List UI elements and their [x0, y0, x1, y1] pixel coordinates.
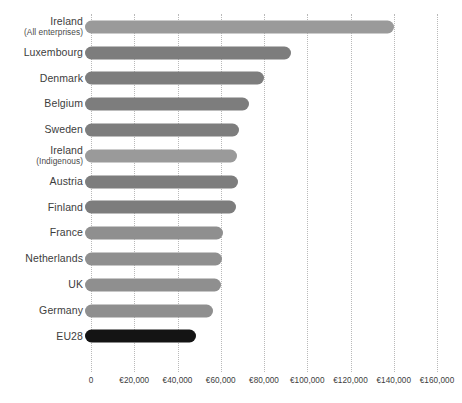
bar-chart: Ireland(All enterprises)LuxembourgDenmar…	[0, 0, 462, 403]
bar[interactable]	[85, 253, 222, 266]
bar-row: EU28	[0, 324, 462, 350]
bar[interactable]	[85, 124, 239, 137]
x-axis: 0€20,000€40,000€60,000€80,000€100,000€12…	[0, 376, 462, 394]
bar-track	[91, 195, 437, 221]
bar-rows: Ireland(All enterprises)LuxembourgDenmar…	[0, 14, 462, 358]
bar[interactable]	[85, 227, 223, 240]
category-label-main: Denmark	[40, 73, 83, 85]
bar[interactable]	[85, 72, 264, 85]
category-label-main: Netherlands	[25, 253, 83, 265]
category-label: Finland	[0, 195, 83, 221]
bar-track	[91, 246, 437, 272]
bar-row: Ireland(All enterprises)	[0, 14, 462, 40]
x-tick-label: €40,000	[163, 376, 193, 385]
category-label: Germany	[0, 298, 83, 324]
bar[interactable]	[85, 46, 291, 59]
bar[interactable]	[85, 98, 249, 111]
bar[interactable]	[85, 304, 213, 317]
category-label-main: UK	[68, 279, 83, 291]
bar-track	[91, 169, 437, 195]
category-label: France	[0, 220, 83, 246]
bar-row: Sweden	[0, 117, 462, 143]
category-label-main: Sweden	[44, 124, 83, 136]
category-label: Luxembourg	[0, 40, 83, 66]
bar-track	[91, 143, 437, 169]
bar[interactable]	[85, 330, 196, 343]
category-label: Sweden	[0, 117, 83, 143]
category-label-main: EU28	[56, 331, 83, 343]
bar[interactable]	[85, 149, 237, 162]
bar-row: UK	[0, 272, 462, 298]
x-tick-label: €140,000	[376, 376, 411, 385]
bar-track	[91, 40, 437, 66]
x-tick-label: €20,000	[119, 376, 149, 385]
category-label-main: France	[50, 227, 83, 239]
category-label-main: Finland	[48, 202, 83, 214]
category-label: Ireland(All enterprises)	[0, 14, 83, 40]
bar-track	[91, 220, 437, 246]
category-label: Austria	[0, 169, 83, 195]
bar-row: Netherlands	[0, 246, 462, 272]
category-label-main: Austria	[50, 176, 83, 188]
category-label-main: Luxembourg	[24, 47, 83, 59]
category-label: UK	[0, 272, 83, 298]
bar-row: Denmark	[0, 66, 462, 92]
bar[interactable]	[85, 175, 238, 188]
bar-track	[91, 14, 437, 40]
bar-track	[91, 91, 437, 117]
category-label-main: Germany	[39, 305, 83, 317]
x-tick-label: €60,000	[206, 376, 236, 385]
x-tick-label: €120,000	[333, 376, 368, 385]
bar-row: Germany	[0, 298, 462, 324]
category-label: Belgium	[0, 91, 83, 117]
bar-row: Austria	[0, 169, 462, 195]
bar[interactable]	[85, 201, 236, 214]
x-tick-label: 0	[89, 376, 94, 385]
bar[interactable]	[85, 278, 221, 291]
bar-track	[91, 324, 437, 350]
x-tick-label: €80,000	[249, 376, 279, 385]
bar-track	[91, 117, 437, 143]
bar-row: Belgium	[0, 91, 462, 117]
x-tick-label: €100,000	[290, 376, 325, 385]
category-label-main: Belgium	[44, 98, 83, 110]
bar[interactable]	[85, 20, 394, 33]
category-label-sub: (Indigenous)	[36, 157, 83, 166]
category-label-sub: (All enterprises)	[24, 28, 83, 37]
category-label: Denmark	[0, 66, 83, 92]
category-label: Ireland(Indigenous)	[0, 143, 83, 169]
bar-row: Luxembourg	[0, 40, 462, 66]
bar-row: France	[0, 220, 462, 246]
bar-track	[91, 272, 437, 298]
bar-row: Finland	[0, 195, 462, 221]
bar-track	[91, 66, 437, 92]
x-tick-label: €160,000	[420, 376, 455, 385]
bar-row: Ireland(Indigenous)	[0, 143, 462, 169]
category-label: EU28	[0, 324, 83, 350]
category-label: Netherlands	[0, 246, 83, 272]
bar-track	[91, 298, 437, 324]
